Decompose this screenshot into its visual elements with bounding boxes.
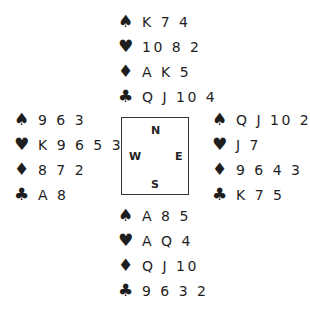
- south-diamonds: Q J 10: [142, 258, 199, 274]
- diamond-icon: ♦: [212, 161, 236, 178]
- west-clubs-row: ♣ A 8: [14, 182, 123, 207]
- heart-icon: ♥: [14, 136, 38, 153]
- south-spades-row: ♠ A 8 5: [118, 203, 208, 228]
- compass-north: N: [151, 124, 160, 137]
- south-clubs: 9 6 3 2: [142, 283, 208, 299]
- east-spades: Q J 10 2: [236, 112, 310, 128]
- north-clubs-row: ♣ Q J 10 4: [118, 84, 217, 109]
- south-hearts-row: ♥ A Q 4: [118, 228, 208, 253]
- spade-icon: ♠: [118, 13, 142, 30]
- compass-box: N W E S: [121, 117, 189, 195]
- east-hearts-row: ♥ J 7: [212, 132, 310, 157]
- north-diamonds-row: ♦ A K 5: [118, 59, 217, 84]
- west-hearts-row: ♥ K 9 6 5 3: [14, 132, 123, 157]
- club-icon: ♣: [118, 88, 142, 105]
- east-diamonds: 9 6 4 3: [236, 162, 302, 178]
- west-diamonds: 8 7 2: [38, 162, 86, 178]
- compass-south: S: [151, 178, 159, 191]
- west-spades: 9 6 3: [38, 112, 86, 128]
- south-hearts: A Q 4: [142, 233, 193, 249]
- north-spades-row: ♠ K 7 4: [118, 9, 217, 34]
- west-diamonds-row: ♦ 8 7 2: [14, 157, 123, 182]
- compass-east: E: [175, 150, 183, 163]
- spade-icon: ♠: [212, 111, 236, 128]
- west-hearts: K 9 6 5 3: [38, 137, 123, 153]
- spade-icon: ♠: [14, 111, 38, 128]
- east-clubs: K 7 5: [236, 187, 284, 203]
- east-clubs-row: ♣ K 7 5: [212, 182, 310, 207]
- east-diamonds-row: ♦ 9 6 4 3: [212, 157, 310, 182]
- east-hand: ♠ Q J 10 2 ♥ J 7 ♦ 9 6 4 3 ♣ K 7 5: [212, 107, 310, 207]
- south-hand: ♠ A 8 5 ♥ A Q 4 ♦ Q J 10 ♣ 9 6 3 2: [118, 203, 208, 303]
- north-hearts-row: ♥ 10 8 2: [118, 34, 217, 59]
- heart-icon: ♥: [118, 232, 142, 249]
- west-spades-row: ♠ 9 6 3: [14, 107, 123, 132]
- east-spades-row: ♠ Q J 10 2: [212, 107, 310, 132]
- heart-icon: ♥: [118, 38, 142, 55]
- heart-icon: ♥: [212, 136, 236, 153]
- diamond-icon: ♦: [118, 63, 142, 80]
- compass-west: W: [129, 150, 141, 163]
- west-clubs: A 8: [38, 187, 68, 203]
- club-icon: ♣: [14, 186, 38, 203]
- north-hearts: 10 8 2: [142, 39, 202, 55]
- north-hand: ♠ K 7 4 ♥ 10 8 2 ♦ A K 5 ♣ Q J 10 4: [118, 9, 217, 109]
- east-hearts: J 7: [236, 137, 261, 153]
- club-icon: ♣: [212, 186, 236, 203]
- south-diamonds-row: ♦ Q J 10: [118, 253, 208, 278]
- south-spades: A 8 5: [142, 208, 191, 224]
- diamond-icon: ♦: [118, 257, 142, 274]
- spade-icon: ♠: [118, 207, 142, 224]
- club-icon: ♣: [118, 282, 142, 299]
- north-diamonds: A K 5: [142, 64, 191, 80]
- north-spades: K 7 4: [142, 14, 190, 30]
- south-clubs-row: ♣ 9 6 3 2: [118, 278, 208, 303]
- diamond-icon: ♦: [14, 161, 38, 178]
- west-hand: ♠ 9 6 3 ♥ K 9 6 5 3 ♦ 8 7 2 ♣ A 8: [14, 107, 123, 207]
- north-clubs: Q J 10 4: [142, 89, 217, 105]
